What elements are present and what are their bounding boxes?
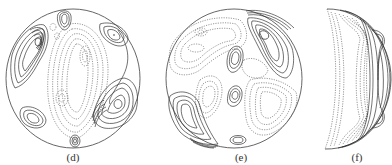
panel-d-boundary (6, 9, 140, 148)
panel-d-central-negative (48, 23, 108, 138)
panel-f-inner-boundary (325, 9, 336, 149)
panel-d-lower-left-lobe (20, 107, 46, 128)
panel-e-lower-left-lobe (169, 92, 218, 148)
panel-e-upper-right-lobe (246, 10, 294, 78)
figure-canvas: (d) (0, 0, 392, 165)
panel-d-top-lobe (57, 11, 71, 30)
panel-e-central-cells (227, 46, 243, 106)
panel-d-upper-right-lobe (100, 23, 128, 46)
panel-d-upper-left-lobe (11, 25, 48, 88)
panel-f-negative-contours (330, 12, 368, 147)
panel-d: (d) (6, 9, 140, 164)
panel-e: (e) (166, 9, 302, 164)
panel-f-outer-boundary (325, 9, 391, 149)
panel-f: (f) (325, 9, 391, 164)
panel-e-label: (e) (235, 151, 248, 164)
panel-f-label: (f) (352, 151, 363, 164)
panel-f-positive-contours (358, 18, 385, 140)
panel-d-bottom-lobe (70, 135, 80, 147)
panel-e-negative-regions (169, 18, 297, 135)
panel-d-label: (d) (67, 151, 80, 164)
panel-d-lower-right-lobe (92, 78, 138, 128)
panel-e-bottom-cell (230, 136, 246, 145)
